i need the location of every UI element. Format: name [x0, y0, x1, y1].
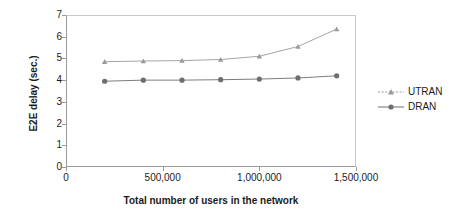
x-tick-label: 1,500,000 — [334, 172, 379, 183]
y-tick-label: 7 — [40, 10, 62, 20]
x-tick-mark — [356, 167, 357, 171]
y-tick-label: 2 — [40, 119, 62, 129]
y-tick-label: 5 — [40, 53, 62, 63]
y-tick-label: 0 — [40, 162, 62, 172]
y-tick-mark — [62, 15, 66, 16]
y-tick-mark — [62, 124, 66, 125]
chart-figure: E2E delay (sec.) 01234567 Total number o… — [0, 0, 462, 219]
utran-line-icon — [378, 87, 404, 97]
y-tick-label: 6 — [40, 32, 62, 42]
y-tick-mark — [62, 80, 66, 81]
y-tick-mark — [62, 102, 66, 103]
y-axis-title: E2E delay (sec.) — [28, 14, 39, 174]
x-tick-label: 500,000 — [145, 172, 181, 183]
x-tick-mark — [259, 167, 260, 171]
legend-label-dran: DRAN — [408, 101, 436, 112]
y-tick-mark — [62, 58, 66, 59]
x-axis-title: Total number of users in the network — [66, 195, 356, 206]
y-tick-label: 3 — [40, 97, 62, 107]
dran-line-icon — [378, 102, 404, 112]
y-axis-ticks: 01234567 — [40, 0, 62, 219]
legend-label-utran: UTRAN — [408, 86, 442, 97]
legend-item-utran: UTRAN — [378, 84, 442, 99]
y-tick-label: 1 — [40, 140, 62, 150]
x-tick-label: 1,000,000 — [237, 172, 282, 183]
y-tick-mark — [62, 145, 66, 146]
x-tick-mark — [163, 167, 164, 171]
legend: UTRAN DRAN — [378, 84, 442, 114]
plot-area — [66, 15, 356, 167]
legend-item-dran: DRAN — [378, 99, 442, 114]
y-tick-label: 4 — [40, 75, 62, 85]
x-tick-mark — [66, 167, 67, 171]
y-tick-mark — [62, 37, 66, 38]
x-tick-label: 0 — [63, 172, 69, 183]
